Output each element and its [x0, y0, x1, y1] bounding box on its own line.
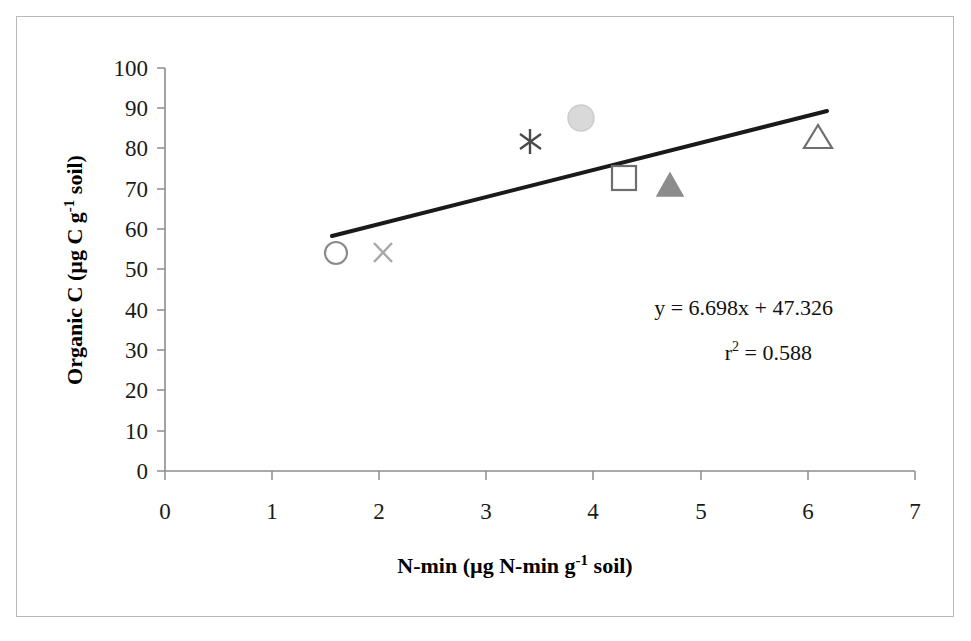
r-squared-value: = 0.588: [739, 340, 812, 365]
x-axis-ticks: [165, 471, 915, 480]
marker-open-circle: [325, 242, 347, 264]
y-tick-label: 50: [125, 257, 148, 282]
y-tick-label: 70: [125, 177, 148, 202]
y-axis-tick-labels: 100 90 80 70 60 50 40 30 20 10 0: [114, 56, 149, 484]
marker-open-square: [612, 166, 636, 190]
y-tick-label: 60: [125, 217, 148, 242]
x-axis-tick-labels: 0 1 2 3 4 5 6 7: [159, 499, 921, 524]
y-tick-label: 10: [125, 419, 148, 444]
marker-filled-circle: [568, 105, 594, 131]
r-squared-label: r2 = 0.588: [725, 339, 812, 365]
regression-equation-label: y = 6.698x + 47.326: [654, 295, 833, 320]
x-tick-label: 2: [373, 499, 385, 524]
x-tick-label: 0: [159, 499, 171, 524]
x-axis-title-main: N-min (µg N-min g: [397, 553, 575, 578]
y-axis-title-tail: soil): [62, 155, 87, 200]
marker-cross-x: [374, 243, 392, 262]
x-axis-title-tail: soil): [588, 553, 633, 578]
x-axis-title-superscript: -1: [576, 552, 589, 568]
y-tick-label: 90: [125, 96, 148, 121]
x-tick-label: 5: [695, 499, 707, 524]
y-tick-label: 0: [137, 459, 149, 484]
y-axis-ticks: [157, 68, 165, 471]
x-tick-label: 3: [480, 499, 492, 524]
y-axis-title-superscript: -1: [61, 200, 77, 213]
y-axis-title-main: Organic C (µg C g: [62, 212, 87, 385]
marker-open-triangle: [804, 125, 832, 148]
r-squared-superscript: 2: [732, 339, 739, 354]
x-tick-label: 4: [587, 499, 599, 524]
x-axis-title: N-min (µg N-min g-1 soil): [397, 552, 632, 578]
scatter-plot: 100 90 80 70 60 50 40 30 20 10 0 0 1 2 3…: [0, 0, 971, 641]
figure-container: 100 90 80 70 60 50 40 30 20 10 0 0 1 2 3…: [0, 0, 971, 641]
y-tick-label: 30: [125, 338, 148, 363]
y-tick-label: 40: [125, 298, 148, 323]
y-tick-label: 80: [125, 136, 148, 161]
y-axis-title: Organic C (µg C g-1 soil): [61, 155, 87, 385]
marker-filled-triangle: [657, 173, 683, 196]
x-tick-label: 6: [802, 499, 814, 524]
y-tick-label: 100: [114, 56, 149, 81]
x-tick-label: 7: [909, 499, 921, 524]
x-tick-label: 1: [266, 499, 278, 524]
marker-asterisk: [520, 129, 541, 154]
y-tick-label: 20: [125, 378, 148, 403]
